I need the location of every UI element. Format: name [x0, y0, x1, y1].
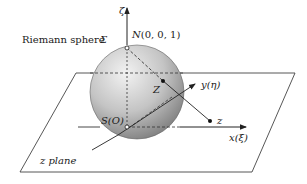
- y-axis-label: y(η): [200, 79, 221, 90]
- x-axis-label: x(ξ): [229, 132, 248, 143]
- point-z-label: z: [216, 115, 223, 126]
- sphere-symbol: Σ: [99, 34, 108, 45]
- sphere-point-Z: [161, 79, 165, 83]
- south-pole-point: [125, 125, 129, 129]
- point-Z-label: Z: [152, 84, 161, 95]
- north-pole-label: N(0, 0, 1): [131, 29, 180, 40]
- north-pole-point: [125, 46, 129, 50]
- zeta-label: ζ: [119, 5, 125, 16]
- south-pole-label: S(O): [101, 115, 124, 126]
- riemann-sphere-diagram: ζ N(0, 0, 1) Riemann sphere Σ Z y(η) S(O…: [0, 0, 307, 184]
- plane-label: z plane: [39, 155, 76, 166]
- plane-point-z: [208, 119, 212, 123]
- y-axis-tail: [92, 135, 118, 150]
- sphere-label: Riemann sphere: [22, 34, 105, 45]
